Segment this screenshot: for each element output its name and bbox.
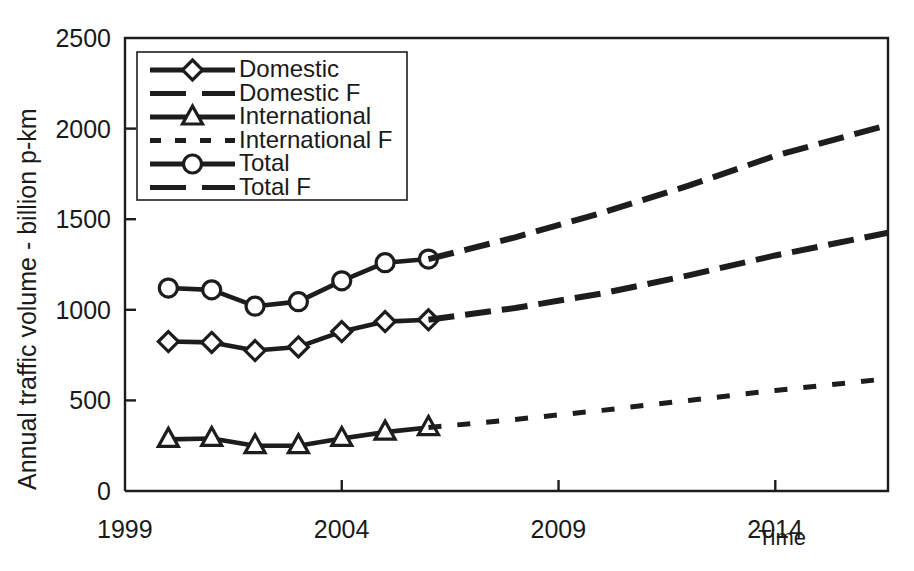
data-point-marker [203,281,221,299]
data-point-marker [246,297,264,315]
y-tick-label: 2000 [55,115,111,143]
x-tick-label: 2004 [314,515,370,543]
x-tick-label: 1999 [97,515,153,543]
chart-legend: DomesticDomestic FInternationalInternati… [137,52,407,200]
legend-item-label: Total F [239,173,311,200]
data-point-marker [289,293,307,311]
y-tick-label: 500 [69,386,111,414]
x-tick-label: 2009 [531,515,587,543]
y-tick-label: 1500 [55,205,111,233]
data-point-marker [159,279,177,297]
y-tick-label: 2500 [55,24,111,52]
line-chart: 05001000150020002500 1999200420092014 An… [0,0,914,571]
y-tick-label: 0 [97,477,111,505]
data-point-marker [376,254,394,272]
legend-marker-circle-icon [184,155,202,173]
x-axis-title: Time [758,525,806,550]
y-tick-label: 1000 [55,296,111,324]
chart-figure: 05001000150020002500 1999200420092014 An… [0,0,914,571]
data-point-marker [333,272,351,290]
y-axis-title: Annual traffic volume - billion p-km [13,108,41,490]
